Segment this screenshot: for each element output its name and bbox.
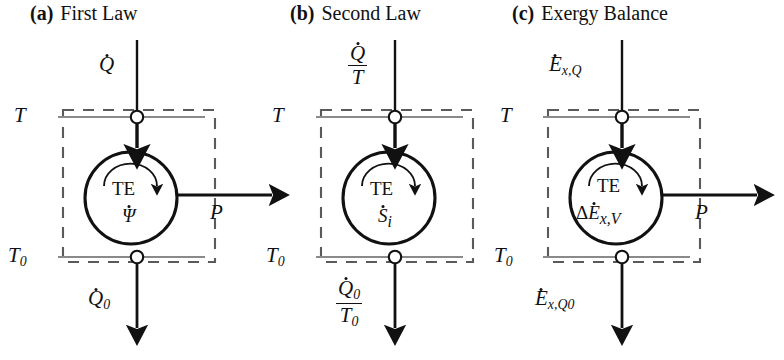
heat-inflow-label-a: Q bbox=[99, 54, 114, 75]
port-top-b bbox=[389, 111, 401, 123]
work-output-label-a: P bbox=[210, 202, 223, 223]
inner-quantity-c: ΔEx,V bbox=[576, 202, 620, 228]
panel-group-a bbox=[58, 40, 272, 328]
device-label-c: TE bbox=[597, 175, 620, 197]
hot-reservoir-label-b: T bbox=[272, 105, 284, 126]
entropy-outflow-label-b: Q0 T0 bbox=[336, 277, 362, 330]
port-top-c bbox=[616, 111, 628, 123]
device-label-b: TE bbox=[370, 178, 393, 200]
cold-reservoir-label-b: T0 bbox=[266, 245, 285, 269]
inner-quantity-a: Ψ bbox=[122, 205, 135, 227]
cold-reservoir-label-a: T0 bbox=[8, 245, 27, 269]
exergy-outflow-label-c: Ex,Q0 bbox=[535, 288, 574, 312]
port-bottom-a bbox=[131, 251, 143, 263]
inner-quantity-b: Si bbox=[378, 205, 392, 231]
thermodynamics-figure: (a)First Law (b)Second Law (c)Exergy Bal… bbox=[0, 0, 784, 360]
port-bottom-c bbox=[616, 251, 628, 263]
device-label-a: TE bbox=[112, 178, 135, 200]
cold-reservoir-label-c: T0 bbox=[494, 245, 513, 269]
engine-circle-c bbox=[570, 152, 662, 244]
entropy-inflow-label-b: Q T bbox=[348, 42, 367, 88]
heat-outflow-label-a: Q0 bbox=[88, 288, 110, 312]
panel-group-c bbox=[543, 40, 757, 328]
port-top-a bbox=[131, 111, 143, 123]
exergy-inflow-label-c: Ex,Q bbox=[549, 54, 581, 78]
hot-reservoir-label-c: T bbox=[500, 105, 512, 126]
port-bottom-b bbox=[389, 251, 401, 263]
hot-reservoir-label-a: T bbox=[14, 105, 26, 126]
work-output-label-c: P bbox=[695, 202, 708, 223]
